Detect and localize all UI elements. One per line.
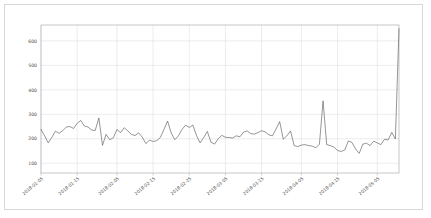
y-tick-label: 400 xyxy=(28,88,37,93)
x-axis-ticks: 2018-01-052018-01-152018-02-052018-02-15… xyxy=(21,176,380,196)
y-tick-label: 300 xyxy=(28,112,37,117)
y-tick-label: 200 xyxy=(28,136,37,141)
x-tick-label: 2018-04-15 xyxy=(318,176,341,196)
x-tick-label: 2018-05-05 xyxy=(358,176,381,196)
x-tick-label: 2018-02-15 xyxy=(133,176,156,196)
y-tick-label: 100 xyxy=(28,161,37,166)
x-tick-label: 2018-04-05 xyxy=(282,176,305,196)
x-tick-label: 2018-03-05 xyxy=(206,176,229,196)
x-tick-label: 2018-03-15 xyxy=(242,176,265,196)
x-tick-label: 2018-01-15 xyxy=(58,176,81,196)
x-tick-label: 2018-02-05 xyxy=(97,176,120,196)
y-axis-ticks: 100200300400500600 xyxy=(28,39,37,166)
y-tick-label: 500 xyxy=(28,63,37,68)
series-line-value xyxy=(41,29,399,154)
x-tick-label: 2018-02-25 xyxy=(170,176,193,196)
axis-frame xyxy=(41,25,399,176)
chart-figure: 100200300400500600 2018-01-052018-01-152… xyxy=(4,4,423,210)
x-tick-label: 2018-01-05 xyxy=(21,176,44,196)
line-chart-svg[interactable]: 100200300400500600 2018-01-052018-01-152… xyxy=(5,5,424,211)
y-tick-label: 600 xyxy=(28,39,37,44)
gridlines xyxy=(41,25,399,173)
plot-area: 100200300400500600 2018-01-052018-01-152… xyxy=(5,5,422,209)
